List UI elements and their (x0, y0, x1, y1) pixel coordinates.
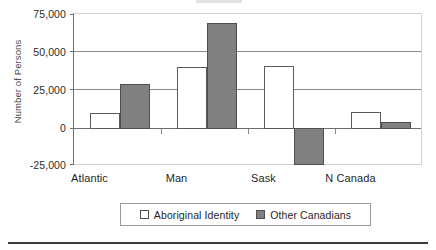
chart-legend: Aboriginal Identity Other Canadians (120, 203, 371, 226)
y-tick-label: 75,000 (18, 8, 66, 20)
bar-atlantic-aboriginal-identity (90, 113, 120, 129)
plot-area (73, 13, 422, 165)
bar-sask-aboriginal-identity (264, 66, 294, 129)
y-tick-mark (70, 14, 74, 15)
legend-entry-aboriginal-identity: Aboriginal Identity (140, 209, 239, 221)
bottom-divider-rule (8, 242, 428, 244)
bar-chart: Number of Persons 75,000 50,000 25,000 0… (0, 0, 436, 250)
legend-label: Other Canadians (270, 209, 351, 221)
y-tick-mark (70, 128, 74, 129)
truncated-title-remnant (196, 0, 242, 3)
bar-sask-other-canadians (294, 128, 324, 165)
y-tick-label: 50,000 (18, 46, 66, 58)
category-label-sask: Sask (220, 172, 307, 184)
x-tick-mark (248, 129, 249, 134)
y-tick-mark (70, 89, 74, 90)
y-tick-mark (70, 164, 74, 165)
category-label-man: Man (133, 172, 220, 184)
y-tick-label: 25,000 (18, 84, 66, 96)
y-tick-mark (70, 51, 74, 52)
white-square-icon (140, 210, 149, 219)
legend-label: Aboriginal Identity (154, 209, 239, 221)
bar-man-other-canadians (207, 23, 237, 129)
y-tick-label: -25,000 (18, 159, 66, 171)
category-label-atlantic: Atlantic (46, 172, 133, 184)
bar-atlantic-other-canadians (120, 84, 150, 129)
bar-man-aboriginal-identity (177, 67, 207, 129)
category-label-n-canada: N Canada (307, 172, 394, 184)
legend-entry-other-canadians: Other Canadians (256, 209, 351, 221)
bar-n-canada-other-canadians (381, 122, 411, 129)
x-tick-mark (161, 129, 162, 134)
gridline-50000 (74, 51, 421, 52)
x-tick-mark (335, 129, 336, 134)
bar-n-canada-aboriginal-identity (351, 112, 381, 129)
y-tick-label: 0 (18, 122, 66, 134)
gray-square-icon (256, 210, 265, 219)
